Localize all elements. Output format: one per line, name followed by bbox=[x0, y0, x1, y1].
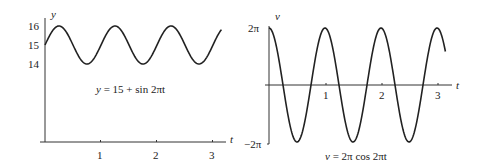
right-xtick-label-1: 1 bbox=[323, 89, 329, 101]
left-curve bbox=[45, 26, 221, 64]
right-ytick-bottom-label: −2π bbox=[244, 138, 262, 150]
right-xtick-label-3: 3 bbox=[435, 89, 441, 101]
left-xlabel: t bbox=[230, 133, 234, 145]
left-chart: y 16 15 14 t 1 2 3 y = 15 + sin 2πt bbox=[28, 8, 234, 161]
right-ylabel: v bbox=[275, 10, 280, 22]
right-chart: v 2π −2π t 1 2 3 v = 2π cos 2πt bbox=[244, 10, 460, 162]
left-ytick-16: 16 bbox=[28, 20, 40, 32]
left-xtick-label-2: 2 bbox=[153, 149, 159, 161]
right-xlabel: t bbox=[456, 79, 460, 91]
left-xtick-label-3: 3 bbox=[209, 149, 215, 161]
right-caption: v = 2π cos 2πt bbox=[325, 150, 387, 162]
figure: y 16 15 14 t 1 2 3 y = 15 + sin 2πt v 2π… bbox=[0, 0, 481, 163]
left-xtick-label-1: 1 bbox=[97, 149, 103, 161]
right-ytick-top: 2π bbox=[248, 22, 260, 34]
left-ylabel: y bbox=[50, 8, 56, 20]
right-xtick-label-2: 2 bbox=[379, 89, 385, 101]
left-ytick-14: 14 bbox=[28, 58, 40, 70]
left-ytick-15: 15 bbox=[28, 39, 40, 51]
left-caption: y = 15 + sin 2πt bbox=[95, 83, 165, 95]
